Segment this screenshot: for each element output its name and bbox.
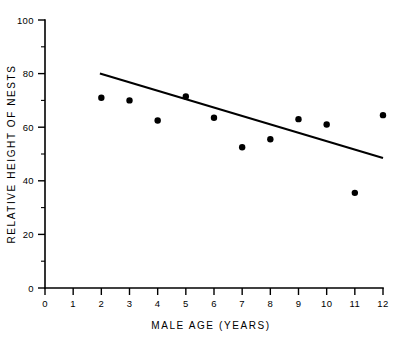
x-tick-label: 12 — [377, 298, 388, 309]
x-axis-title: MALE AGE (YEARS) — [151, 320, 271, 331]
x-tick-label: 3 — [127, 298, 133, 309]
x-tick-label: 0 — [42, 298, 48, 309]
data-point-marker — [154, 117, 160, 123]
x-axis: 0123456789101112 — [42, 288, 389, 309]
y-axis-title: RELATIVE HEIGHT OF NESTS — [6, 64, 17, 243]
x-tick-label: 9 — [296, 298, 302, 309]
data-point-marker — [295, 116, 301, 122]
x-tick-label: 6 — [211, 298, 217, 309]
data-point-marker — [380, 112, 386, 118]
x-tick-label: 4 — [155, 298, 161, 309]
x-tick-label: 10 — [321, 298, 332, 309]
y-tick-label: 0 — [28, 283, 34, 294]
scatter-plot: 020406080100 0123456789101112 MALE AGE (… — [0, 0, 404, 342]
x-tick-label: 11 — [349, 298, 360, 309]
x-tick-label: 1 — [70, 298, 76, 309]
data-point-marker — [267, 136, 273, 142]
y-tick-label: 80 — [23, 68, 34, 79]
y-axis: 020406080100 — [17, 15, 45, 294]
y-tick-label: 40 — [23, 175, 34, 186]
y-tick-label: 20 — [23, 229, 34, 240]
x-tick-label: 2 — [98, 298, 104, 309]
x-tick-label: 7 — [239, 298, 245, 309]
data-point-marker — [323, 121, 329, 127]
data-points — [98, 93, 386, 196]
data-point-marker — [211, 115, 217, 121]
x-tick-label: 8 — [267, 298, 273, 309]
data-point-marker — [126, 97, 132, 103]
data-point-marker — [183, 93, 189, 99]
data-point-marker — [98, 95, 104, 101]
x-tick-label: 5 — [183, 298, 189, 309]
chart-container: 020406080100 0123456789101112 MALE AGE (… — [0, 0, 404, 342]
y-tick-label: 60 — [23, 122, 34, 133]
data-point-marker — [352, 190, 358, 196]
data-point-marker — [239, 144, 245, 150]
y-tick-label: 100 — [17, 15, 34, 26]
